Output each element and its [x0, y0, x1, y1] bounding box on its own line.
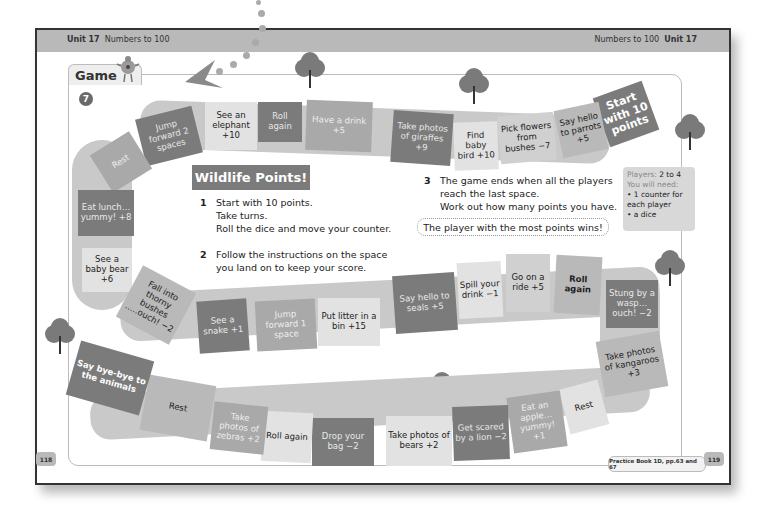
- instruction-number: 3: [424, 174, 431, 187]
- board-space: Say hello to seals +5: [392, 272, 458, 334]
- instruction-line: you land on to keep your score.: [216, 261, 387, 274]
- board-space: Spill your drink −1: [457, 261, 504, 319]
- instruction-number: 1: [200, 196, 207, 209]
- board-space: Jump forward 1 space: [255, 298, 318, 351]
- arrow-icon: [185, 60, 225, 88]
- unit-label: Unit 17: [67, 35, 100, 44]
- instruction-2: 2 Follow the instructions on the space y…: [216, 248, 387, 274]
- header-bar: Unit 17 Numbers to 100 Numbers to 100 Un…: [37, 30, 729, 52]
- header-right: Numbers to 100 Unit 17: [595, 35, 697, 44]
- activity-number-badge: 7: [79, 92, 93, 106]
- board-space: Take photos of kangaroos +3: [596, 331, 669, 397]
- board-space: Roll again: [554, 255, 603, 315]
- board-space: Stung by a wasp… ouch! −2: [606, 280, 658, 328]
- need-item: • 1 counter for each player: [627, 190, 691, 210]
- tree-icon: [42, 318, 78, 356]
- trail-dot: [252, 39, 259, 46]
- board-space: Pick flowers from bushes −7: [497, 112, 557, 165]
- need-item-text: 1 counter for each player: [627, 190, 683, 209]
- trail-dot: [256, 0, 261, 5]
- board-space: See an elephant +10: [205, 102, 257, 150]
- page-number-right: 119: [704, 452, 724, 466]
- trail-dot: [243, 52, 250, 59]
- players-info-box: Players: 2 to 4 You will need: • 1 count…: [623, 167, 695, 231]
- instruction-line: Start with 10 points.: [216, 196, 391, 209]
- board-space: Get scared by a lion −2: [452, 405, 510, 461]
- trail-dot: [258, 10, 265, 17]
- board-space: Take photos of zebras +2: [210, 401, 269, 454]
- instruction-line: Follow the instructions on the space: [216, 248, 387, 261]
- board-space: See a baby bear +6: [82, 248, 132, 292]
- board-space: Say hello to parrots +5: [554, 102, 609, 159]
- players-label: Players:: [627, 170, 657, 179]
- instruction-line: The game ends when all the players: [440, 174, 617, 187]
- instruction-line: Take turns.: [216, 209, 391, 222]
- header-left: Unit 17 Numbers to 100: [67, 35, 169, 44]
- instruction-1: 1 Start with 10 points. Take turns. Roll…: [216, 196, 391, 235]
- board-space: Roll again: [261, 411, 314, 464]
- topic-label: Numbers to 100: [595, 35, 660, 44]
- winner-note: The player with the most points wins!: [417, 218, 609, 236]
- game-title: Wildlife Points!: [192, 165, 310, 190]
- instruction-number: 2: [200, 248, 207, 261]
- unit-label: Unit 17: [664, 35, 697, 44]
- need-item-text: a dice: [634, 210, 657, 219]
- trail-dot: [230, 61, 237, 68]
- board-space: Roll again: [258, 102, 302, 142]
- instruction-line: Roll the dice and move your counter.: [216, 222, 391, 235]
- page-number-left: 118: [36, 452, 56, 466]
- need-item: • a dice: [627, 210, 691, 220]
- board-space: Rest: [140, 375, 217, 442]
- board-space: Drop your bag −2: [312, 418, 374, 466]
- board-space: Eat lunch… yummy! +8: [78, 190, 134, 236]
- section-label: Game: [75, 68, 117, 83]
- board-space: Find baby bird +10: [453, 121, 499, 171]
- tree-icon: [672, 114, 708, 152]
- board-space: Take photos of giraffes +9: [390, 110, 453, 166]
- board-space: Put litter in a bin +15: [318, 298, 380, 346]
- instruction-line: reach the last space.: [440, 187, 617, 200]
- board-space: Go on a ride +5: [506, 254, 550, 312]
- board-space: See a snake +1: [196, 298, 250, 353]
- tree-icon: [292, 52, 328, 90]
- mascot-icon: [116, 54, 140, 84]
- tree-icon: [456, 68, 492, 106]
- board-space: Have a drink +5: [305, 100, 373, 152]
- need-label: You will need:: [627, 180, 691, 190]
- practice-book-reference: Practice Book 1D, pp.63 and 67: [608, 456, 706, 472]
- topic-label: Numbers to 100: [105, 35, 170, 44]
- players-value: 2 to 4: [659, 170, 681, 179]
- board-space: Eat an apple… yummy! +1: [506, 391, 567, 454]
- instruction-line: Work out how many points you have.: [440, 200, 617, 213]
- trail-dot: [259, 25, 266, 32]
- instruction-3: 3 The game ends when all the players rea…: [440, 174, 617, 213]
- board-space: Take photos of bears +2: [386, 416, 452, 466]
